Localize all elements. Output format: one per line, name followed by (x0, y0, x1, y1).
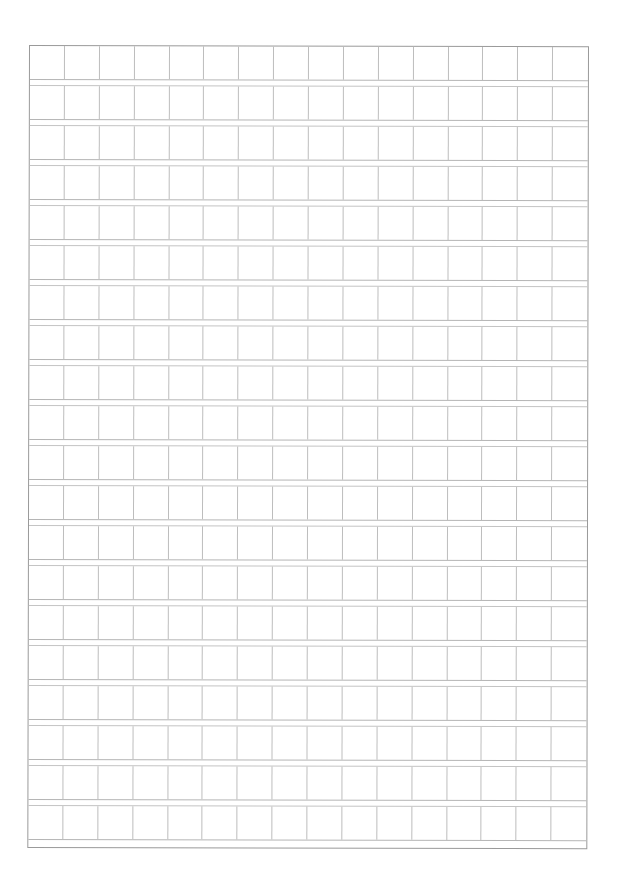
grid-cell (30, 246, 65, 279)
grid-cell (447, 767, 482, 800)
grid-cell (412, 807, 447, 840)
grid-cell (168, 686, 203, 719)
grid-cell (309, 207, 344, 240)
grid-cell (204, 206, 239, 239)
grid-cell (238, 406, 273, 439)
grid-cell (133, 646, 168, 679)
grid-cell (378, 447, 413, 480)
grid-cell (65, 126, 100, 159)
grid-cell (308, 687, 343, 720)
grid-cell (239, 246, 274, 279)
grid-cell (29, 726, 64, 759)
grid-cell (273, 447, 308, 480)
grid-cell (343, 207, 378, 240)
grid-cell (64, 566, 99, 599)
grid-cell (64, 286, 99, 319)
grid-cell (308, 487, 343, 520)
grid-cell (308, 727, 343, 760)
grid-cell (344, 87, 379, 120)
grid-cell (204, 366, 239, 399)
grid-cell (238, 486, 273, 519)
grid-cell (29, 686, 64, 719)
grid-cell (99, 406, 134, 439)
grid-row (30, 206, 588, 241)
grid-cell (99, 526, 134, 559)
grid-cell (65, 86, 100, 119)
grid-cell (552, 567, 587, 600)
grid-cell (344, 167, 379, 200)
grid-cell (65, 166, 100, 199)
grid-cell (518, 287, 553, 320)
grid-cell (30, 126, 65, 159)
grid-cell (377, 767, 412, 800)
grid-cell (343, 247, 378, 280)
grid-cell (64, 246, 99, 279)
grid-cell (100, 126, 135, 159)
grid-cell (238, 686, 273, 719)
grid-cell (378, 407, 413, 440)
grid-cell (518, 127, 553, 160)
grid-cell (518, 47, 553, 80)
grid-cell (30, 86, 65, 119)
grid-cell (483, 87, 518, 120)
grid-cell (29, 366, 64, 399)
grid-cell (65, 46, 100, 79)
grid-cell (273, 367, 308, 400)
grid-cell (483, 127, 518, 160)
grid-cell (308, 447, 343, 480)
grid-cell (100, 46, 135, 79)
grid-cell (309, 47, 344, 80)
grid-cell (204, 166, 239, 199)
grid-cell (552, 327, 587, 360)
grid-cell (99, 566, 134, 599)
grid-paper-sheet (27, 45, 589, 849)
grid-cell (552, 487, 587, 520)
grid-cell (133, 766, 168, 799)
grid-cell (169, 486, 204, 519)
grid-cell (448, 167, 483, 200)
grid-cell (63, 766, 98, 799)
grid-cell (378, 487, 413, 520)
grid-cell (448, 47, 483, 80)
grid-cell (204, 286, 239, 319)
grid-cell (98, 726, 133, 759)
grid-cell (134, 366, 169, 399)
grid-cell (168, 806, 203, 839)
grid-cell (134, 206, 169, 239)
grid-cell (343, 447, 378, 480)
grid-cell (238, 766, 273, 799)
grid-cell (413, 527, 448, 560)
grid-cell (448, 247, 483, 280)
grid-cell (134, 406, 169, 439)
grid-cell (552, 447, 587, 480)
grid-cell (29, 446, 64, 479)
grid-cell (168, 526, 203, 559)
grid-cell (64, 406, 99, 439)
grid-cell (63, 726, 98, 759)
grid-cell (553, 167, 588, 200)
grid-cell (518, 367, 553, 400)
grid-row (29, 326, 587, 361)
grid-cell (448, 487, 483, 520)
grid-cell (308, 407, 343, 440)
grid-cell (377, 687, 412, 720)
grid-cell (379, 127, 414, 160)
grid-cell (239, 46, 274, 79)
grid-cell (413, 407, 448, 440)
grid-cell (133, 566, 168, 599)
grid-cell (309, 127, 344, 160)
grid-row (29, 566, 587, 601)
grid-cell (308, 287, 343, 320)
grid-cell (342, 807, 377, 840)
grid-cell (379, 87, 414, 120)
grid-cell (483, 367, 518, 400)
grid-cell (412, 727, 447, 760)
grid-cell (413, 87, 448, 120)
grid-cell (517, 447, 552, 480)
grid-cell (274, 47, 309, 80)
grid-cell (134, 286, 169, 319)
grid-cell (99, 366, 134, 399)
grid-cell (413, 487, 448, 520)
grid-cell (169, 286, 204, 319)
grid-cell (203, 806, 238, 839)
